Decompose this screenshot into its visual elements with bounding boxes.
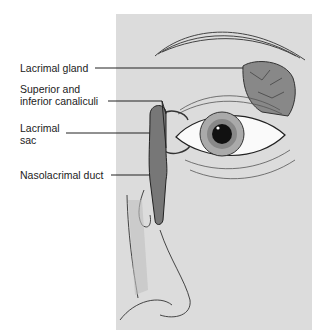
lacrimal-gland-shape	[243, 62, 295, 116]
label-lacrimal-gland: Lacrimal gland	[20, 62, 88, 74]
label-text: inferior canaliculi	[20, 95, 98, 107]
label-text: Lacrimal gland	[20, 62, 88, 74]
label-text: Lacrimal	[20, 122, 60, 134]
label-text: sac	[20, 134, 60, 146]
label-nasolacrimal-duct: Nasolacrimal duct	[20, 169, 103, 181]
label-text: Superior and	[20, 83, 98, 95]
label-lacrimal-sac: Lacrimal sac	[20, 122, 60, 146]
label-text: Nasolacrimal duct	[20, 169, 103, 181]
eye-lacrimal-anatomy-illustration	[0, 0, 327, 335]
label-canaliculi: Superior and inferior canaliculi	[20, 83, 98, 107]
eyebrow	[155, 32, 305, 60]
eye	[176, 112, 285, 156]
